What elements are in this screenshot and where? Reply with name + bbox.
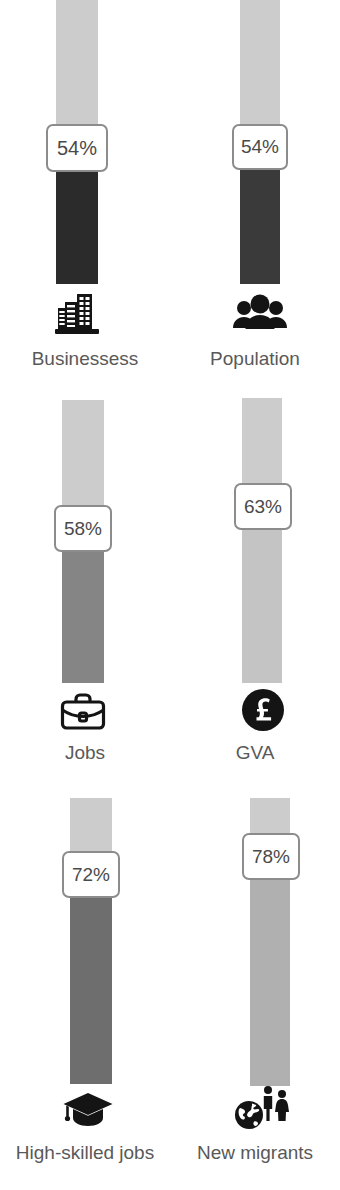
cell-label-new-migrants: New migrants (170, 1142, 340, 1164)
bar-fill (56, 160, 98, 284)
bar-gva (242, 398, 282, 683)
bar-fill (240, 160, 280, 284)
metric-cell-new-migrants: 78% New (170, 790, 340, 1190)
briefcase-icon (58, 690, 108, 734)
pound-coin-icon (240, 687, 286, 733)
value-badge-population: 54% (232, 124, 288, 170)
cell-label-population: Population (170, 348, 340, 370)
metric-cell-jobs: 58% Jobs (0, 390, 170, 790)
bar-high-skilled-jobs (70, 798, 112, 1084)
globe-migrants-icon (232, 1082, 292, 1132)
cell-label-gva: GVA (170, 742, 340, 764)
infographic-board: 54% (0, 0, 340, 1190)
value-badge-jobs: 58% (54, 505, 112, 552)
bar-fill (70, 878, 112, 1084)
cell-label-high-skilled-jobs: High-skilled jobs (0, 1142, 170, 1164)
metric-cell-high-skilled-jobs: 72% High-skilled jobs (0, 790, 170, 1190)
bar-fill (250, 861, 290, 1086)
value-badge-gva: 63% (234, 483, 292, 530)
cell-label-jobs: Jobs (0, 742, 170, 764)
cell-label-businesses: Businessess (0, 348, 170, 370)
office-buildings-icon (53, 292, 101, 336)
bar-fill (62, 531, 104, 683)
value-badge-new-migrants: 78% (242, 833, 300, 880)
metric-cell-population: 54% Population (170, 0, 340, 390)
value-badge-high-skilled-jobs: 72% (62, 851, 120, 898)
metric-cell-businesses: 54% (0, 0, 170, 390)
value-badge-businesses: 54% (46, 124, 108, 172)
graduation-cap-icon (62, 1090, 114, 1132)
people-group-icon (232, 294, 288, 334)
metric-cell-gva: 63% GVA (170, 390, 340, 790)
